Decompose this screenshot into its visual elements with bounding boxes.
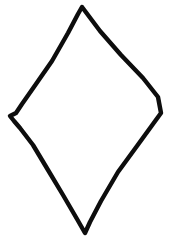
canvas-background (0, 0, 171, 242)
rhombus-figure: Rhombus outline (0, 0, 171, 242)
drawing-canvas: Rhombus outline (0, 0, 171, 242)
